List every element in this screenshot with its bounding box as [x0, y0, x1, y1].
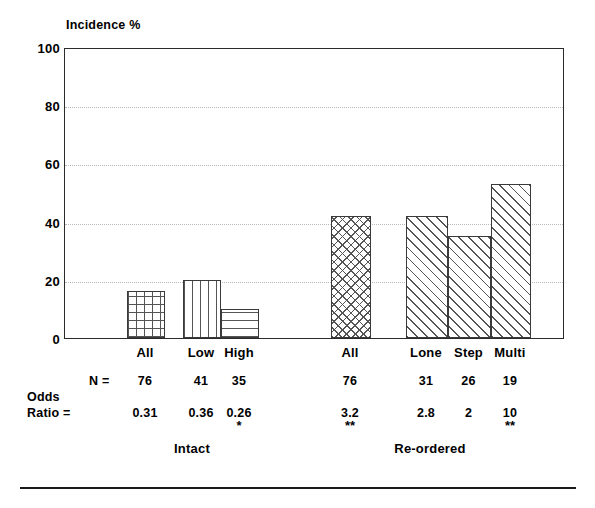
- n-value: 26: [461, 374, 475, 388]
- bar-intact-all: [127, 291, 165, 338]
- figure: Incidence % 020406080100 AllLowHighAllLo…: [0, 0, 595, 508]
- bar-intact-low: [183, 280, 221, 338]
- x-tick-label: Step: [454, 345, 483, 360]
- x-tick-label: All: [136, 345, 153, 360]
- n-value: 41: [194, 374, 208, 388]
- x-tick-label: Multi: [494, 345, 525, 360]
- n-value: 31: [419, 374, 433, 388]
- group-label-intact: Intact: [174, 441, 210, 456]
- y-tick-label: 60: [2, 157, 60, 172]
- x-tick-label: All: [341, 345, 358, 360]
- y-tick-label: 20: [2, 273, 60, 288]
- x-tick-label: Low: [188, 345, 215, 360]
- x-axis-category-labels: AllLowHighAllLoneStepMulti: [64, 345, 564, 367]
- gridline: [65, 107, 563, 108]
- n-row-values: 76413576312619: [64, 374, 564, 390]
- significance-mark: **: [345, 421, 355, 431]
- n-value: 35: [232, 374, 246, 388]
- y-tick-label: 40: [2, 215, 60, 230]
- odds-ratio-value: 2.8: [417, 406, 435, 420]
- n-value: 19: [503, 374, 517, 388]
- odds-ratio-values: 0.310.360.263.22.8210: [64, 406, 564, 422]
- bottom-divider: [20, 487, 576, 489]
- y-tick-label: 0: [2, 332, 60, 347]
- y-tick-label: 80: [2, 99, 60, 114]
- gridline: [65, 224, 563, 225]
- significance-mark: **: [505, 421, 515, 431]
- significance-mark: *: [236, 421, 241, 431]
- y-axis-tick-labels: 020406080100: [0, 48, 60, 339]
- x-tick-label: Lone: [410, 345, 442, 360]
- group-labels: IntactRe-ordered: [64, 441, 564, 461]
- bar-re-ordered-multi: [491, 184, 531, 338]
- odds-ratio-value: 2: [465, 406, 472, 420]
- y-axis-title: Incidence %: [66, 18, 140, 32]
- x-tick-label: High: [224, 345, 254, 360]
- odds-ratio-value: 0.31: [132, 406, 157, 420]
- odds-ratio-label-line1: Odds: [27, 390, 60, 404]
- n-value: 76: [343, 374, 357, 388]
- bar-re-ordered-lone: [406, 216, 448, 338]
- plot-area: [64, 48, 564, 339]
- bar-intact-high: [221, 309, 259, 338]
- n-value: 76: [138, 374, 152, 388]
- y-tick-label: 100: [2, 41, 60, 56]
- bar-re-ordered-all: [331, 216, 371, 338]
- bar-re-ordered-step: [448, 236, 491, 338]
- gridline: [65, 165, 563, 166]
- significance-marks: *****: [64, 421, 564, 435]
- odds-ratio-value: 0.36: [188, 406, 213, 420]
- group-label-re-ordered: Re-ordered: [394, 441, 465, 456]
